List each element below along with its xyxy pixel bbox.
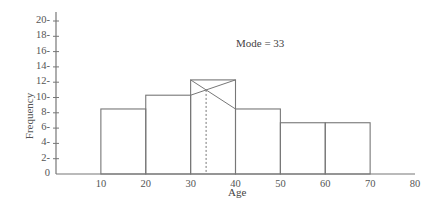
y-axis-title: Frequency [23,81,35,151]
x-tick-label: 50 [268,178,292,189]
mode-construction-line [191,80,236,109]
y-tick-label: 0 [26,167,50,178]
mode-annotation: Mode = 33 [236,37,284,49]
histogram-bar [146,95,191,174]
x-tick-label: 80 [403,178,427,189]
histogram-bar [325,123,370,174]
y-tick-label: 16- [26,45,50,56]
x-tick-label: 10 [89,178,113,189]
histogram-bar [101,109,146,174]
x-tick-label: 20 [134,178,158,189]
y-tick-label: 14- [26,60,50,71]
y-tick-label: 2- [26,152,50,163]
x-tick-label: 30 [179,178,203,189]
mode-construction-line [191,80,236,95]
x-axis-title: Age [228,186,246,198]
x-tick-label: 60 [313,178,337,189]
y-tick-label: 20- [26,14,50,25]
x-tick-label: 70 [358,178,382,189]
histogram-bar [280,123,325,174]
histogram-bar [236,109,281,174]
y-tick-label: 18- [26,29,50,40]
